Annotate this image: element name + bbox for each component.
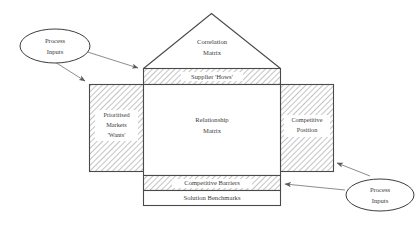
relationship-matrix-label-line2: Matrix [203,127,222,134]
process-inputs-right-label-line1: Process [370,186,391,193]
wants-label-line2: Markets [106,121,127,128]
relationship-matrix-label-line1: Relationship [195,116,229,123]
process-inputs-left-ellipse[interactable] [20,29,90,63]
process-inputs-right-label-line2: Inputs [372,197,389,204]
solution-benchmarks-room: Solution Benchmarks [144,191,281,206]
correlation-matrix-label-line2: Matrix [203,49,222,56]
supplier-hows-label: Supplier 'Hows' [191,73,233,80]
connector-right-to-competitive-position [337,163,370,176]
competitive-barriers-room: Competitive Barriers [144,176,281,191]
competitive-position-label-line1: Competitive [291,116,322,123]
process-inputs-left-label-line1: Process [45,37,66,44]
house-of-quality-diagram: Correlation Matrix Supplier 'Hows' Prior… [0,0,419,225]
supplier-hows-room: Supplier 'Hows' [144,69,281,85]
process-inputs-right-callout[interactable]: Process Inputs [346,179,414,211]
competitive-position-room: Competitive Position [281,85,334,172]
competitive-barriers-label: Competitive Barriers [184,179,240,186]
process-inputs-right-ellipse[interactable] [346,179,414,211]
correlation-matrix-room: Correlation Matrix [144,14,281,69]
process-inputs-left-label-line2: Inputs [47,48,64,55]
relationship-matrix-room: Relationship Matrix [144,85,281,176]
process-inputs-left-callout[interactable]: Process Inputs [20,29,90,63]
correlation-matrix-label-line1: Correlation [197,38,228,45]
solution-benchmarks-label: Solution Benchmarks [184,194,241,201]
wants-label-line1: Prioritised [103,111,130,118]
competitive-position-label-line2: Position [297,126,318,133]
prioritised-markets-wants-room: Prioritised Markets 'Wants' [90,85,144,172]
connector-right-to-competitive-barriers [285,184,345,190]
wants-label-line3: 'Wants' [108,131,126,138]
diagram-canvas: Correlation Matrix Supplier 'Hows' Prior… [0,0,419,225]
